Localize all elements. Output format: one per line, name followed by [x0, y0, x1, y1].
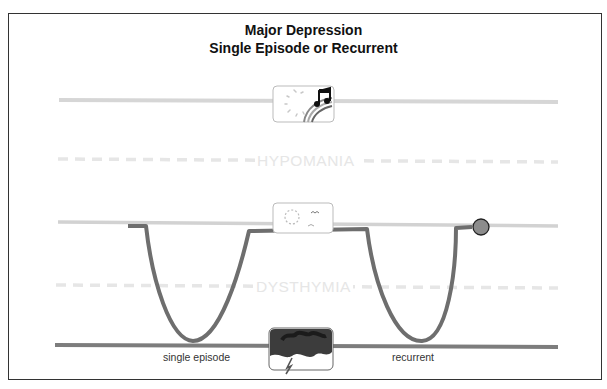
depression-icon — [269, 328, 333, 374]
normal-mood-icon — [273, 203, 333, 233]
dysthymia-label: DYSTHYMIA — [254, 278, 353, 296]
single-episode-caption: single episode — [163, 351, 230, 363]
hypomania-label: HYPOMANIA — [255, 152, 357, 170]
mania-icon — [273, 86, 334, 122]
recurrent-caption: recurrent — [392, 351, 434, 363]
mood-diagram — [0, 0, 607, 389]
current-state-marker — [473, 219, 489, 235]
